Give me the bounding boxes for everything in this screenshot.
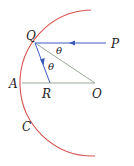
label-O: O (92, 87, 102, 101)
label-theta-1: θ (56, 45, 62, 56)
normal-line-QO (35, 43, 95, 83)
label-Q: Q (26, 29, 36, 43)
label-P: P (110, 37, 120, 51)
incident-arrow-icon (69, 41, 75, 46)
mirror-diagram: Q P θ θ A R O C (0, 0, 134, 166)
label-C: C (22, 120, 31, 134)
label-R: R (41, 87, 51, 101)
label-A: A (8, 77, 18, 91)
label-theta-2: θ (48, 61, 54, 72)
